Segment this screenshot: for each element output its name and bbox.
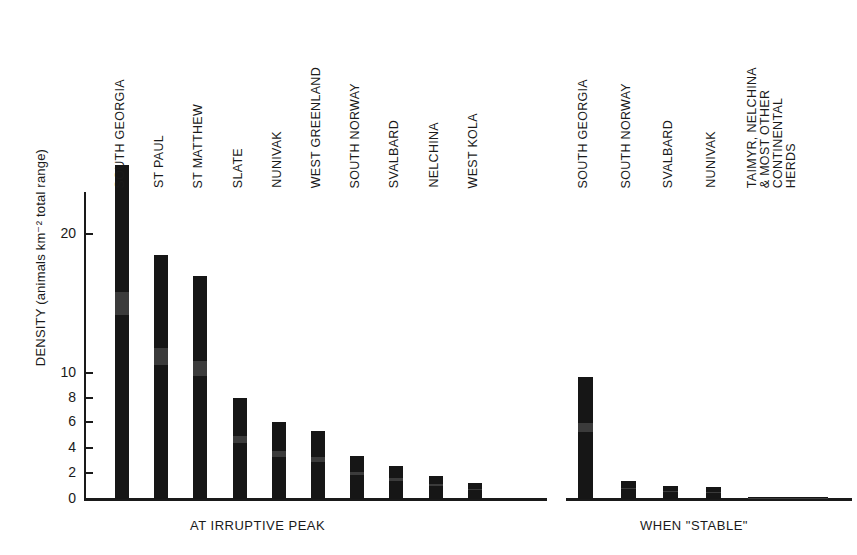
bar <box>311 431 325 499</box>
category-label-wrap: TAIMYR, NELCHINA & MOST OTHER CONTINENTA… <box>746 2 798 188</box>
category-label-wrap: SOUTH NORWAY <box>620 2 636 188</box>
category-label-wrap: SLATE <box>232 2 248 188</box>
bar <box>468 483 482 499</box>
y-tick-label-8: 8 <box>48 390 76 404</box>
category-label-wrap: NUNIVAK <box>705 2 721 188</box>
category-label: WEST GREENLAND <box>310 67 323 188</box>
y-tick-2 <box>84 472 93 474</box>
category-label: SOUTH GEORGIA <box>114 79 127 188</box>
y-tick-8 <box>84 397 93 399</box>
y-tick-label-10: 10 <box>48 365 76 379</box>
bar <box>429 476 443 499</box>
category-label-wrap: ST MATTHEW <box>192 2 208 188</box>
bar <box>350 456 364 500</box>
category-label: SLATE <box>232 148 245 188</box>
category-label: NELCHINA <box>428 122 441 188</box>
category-label: TAIMYR, NELCHINA & MOST OTHER CONTINENTA… <box>746 67 798 188</box>
category-label-wrap: SVALBARD <box>662 2 678 188</box>
category-label: SOUTH GEORGIA <box>577 79 590 188</box>
bar <box>748 497 828 499</box>
y-tick-10 <box>84 372 93 374</box>
category-label: SOUTH NORWAY <box>349 83 362 188</box>
category-label-wrap: SOUTH GEORGIA <box>114 2 130 188</box>
y-tick-6 <box>84 421 93 423</box>
y-tick-label-2: 2 <box>48 465 76 479</box>
y-axis-title: DENSITY (animals km⁻² total range) <box>33 108 48 408</box>
category-label-wrap: NUNIVAK <box>271 2 287 188</box>
bar <box>154 255 168 499</box>
y-tick-4 <box>84 447 93 449</box>
category-label: SVALBARD <box>388 120 401 188</box>
bar <box>389 466 403 500</box>
bar <box>193 276 207 499</box>
category-label-wrap: WEST KOLA <box>467 2 483 188</box>
category-label: NUNIVAK <box>705 131 718 188</box>
category-label-wrap: SVALBARD <box>388 2 404 188</box>
category-label: SOUTH NORWAY <box>620 83 633 188</box>
bar <box>621 481 636 499</box>
group-caption-left: AT IRRUPTIVE PEAK <box>190 518 325 533</box>
category-label: ST MATTHEW <box>192 104 205 188</box>
category-label-wrap: NELCHINA <box>428 2 444 188</box>
bar <box>706 487 721 499</box>
y-axis-spine <box>84 192 86 501</box>
category-label-wrap: SOUTH NORWAY <box>349 2 365 188</box>
bar <box>578 377 593 499</box>
category-label: ST PAUL <box>153 135 166 188</box>
density-bar-chart: DENSITY (animals km⁻² total range) 02468… <box>0 0 857 555</box>
category-label-wrap: ST PAUL <box>153 2 169 188</box>
y-tick-label-0: 0 <box>48 491 76 505</box>
y-tick-label-6: 6 <box>48 414 76 428</box>
category-label: SVALBARD <box>662 120 675 188</box>
y-tick-label-20: 20 <box>48 226 76 240</box>
bar <box>663 486 678 499</box>
bar <box>272 422 286 499</box>
category-label: WEST KOLA <box>467 113 480 188</box>
category-label-wrap: WEST GREENLAND <box>310 2 326 188</box>
group-caption-right: WHEN "STABLE" <box>640 518 748 533</box>
y-tick-20 <box>84 233 93 235</box>
category-label: NUNIVAK <box>271 131 284 188</box>
y-axis-title-text: DENSITY (animals km⁻² total range) <box>33 149 48 366</box>
category-label-wrap: SOUTH GEORGIA <box>577 2 593 188</box>
bar <box>115 165 129 500</box>
y-tick-label-4: 4 <box>48 440 76 454</box>
bar <box>233 398 247 499</box>
